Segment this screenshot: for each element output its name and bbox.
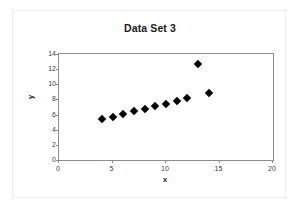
y-axis-tick-label: 14 [40,50,56,57]
x-axis-tick-mark [112,160,113,163]
y-axis-title: y [26,95,35,99]
data-point [140,104,148,112]
y-axis-tick-mark [56,130,59,131]
x-axis-tick-mark [219,160,220,163]
x-axis-tick-mark [165,160,166,163]
data-point [119,110,127,118]
data-point [130,107,138,115]
y-axis-tick-label: 0 [40,156,56,163]
data-point [194,59,202,67]
y-axis-tick-label: 2 [40,140,56,147]
y-axis-tick-mark [56,115,59,116]
x-axis-tick-label: 20 [262,165,282,172]
y-axis-tick-label: 10 [40,80,56,87]
data-point [108,112,116,120]
chart-frame: Data Set 3 y 02468101214 05101520 x [12,10,286,198]
x-axis-tick-labels: 05101520 [58,160,273,176]
y-axis-tick-label: 6 [40,110,56,117]
data-point [172,97,180,105]
plot-area [58,53,274,161]
y-axis-tick-label: 8 [40,95,56,102]
data-point [98,115,106,123]
x-axis-tick-mark [58,160,59,163]
data-point [151,102,159,110]
x-axis-tick-label: 15 [209,165,229,172]
data-point [162,99,170,107]
data-point [205,89,213,97]
chart-title: Data Set 3 [13,22,287,34]
data-point [183,94,191,102]
x-axis-tick-label: 0 [48,165,68,172]
x-axis-tick-mark [272,160,273,163]
x-axis-tick-label: 5 [102,165,122,172]
y-axis-tick-label: 12 [40,65,56,72]
x-axis-tick-label: 10 [155,165,175,172]
y-axis-tick-mark [56,145,59,146]
x-axis-title: x [58,175,272,184]
y-axis-tick-mark [56,84,59,85]
y-axis-tick-mark [56,69,59,70]
y-axis-tick-mark [56,99,59,100]
y-axis-tick-label: 4 [40,125,56,132]
y-axis-tick-labels: 02468101214 [38,53,56,159]
y-axis-tick-mark [56,54,59,55]
